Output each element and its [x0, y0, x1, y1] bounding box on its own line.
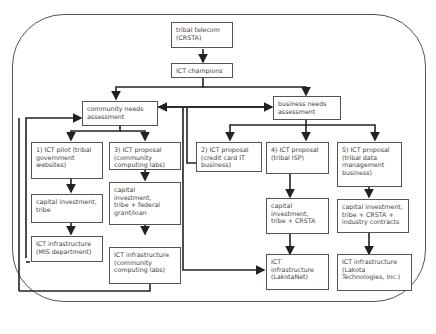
node-community-needs: community needs assessment: [82, 101, 158, 126]
node-capital-4: capital investment, tribe + CRSTA: [266, 198, 329, 234]
node-infra-lakotanet: ICT infrastructure (LakotaNet): [266, 254, 329, 290]
node-ict-proposal-2: 2) ICT proposal (credit card IT business…: [196, 142, 262, 172]
node-capital-5: capital investment, tribe + CRSTA + indu…: [337, 199, 409, 233]
node-capital-3: capital investment, tribe + federal gran…: [109, 182, 181, 225]
node-ict-pilot-1: 1) ICT pilot (tribal government websites…: [31, 142, 103, 179]
node-ict-champions: ICT champions: [171, 63, 233, 78]
node-ict-proposal-3: 3) ICT proposal (community computing lab…: [109, 142, 181, 170]
node-ict-proposal-5: 5) ICT proposal (tribal data management …: [337, 142, 402, 187]
node-business-needs: business needs assessment: [273, 96, 341, 120]
node-tribal-telecom: tribal telecom (CRSTA): [171, 22, 233, 48]
node-capital-1: capital investment, tribe: [31, 194, 103, 223]
node-infra-mis: ICT infrastructure (MIS department): [31, 236, 103, 262]
node-ict-proposal-4: 4) ICT proposal (tribal ISP): [266, 142, 329, 174]
node-infra-labs: ICT infrastructure (community computing …: [109, 247, 181, 284]
node-infra-lakota-tech: ICT infrastructure (Lakota Technologies,…: [337, 254, 412, 291]
